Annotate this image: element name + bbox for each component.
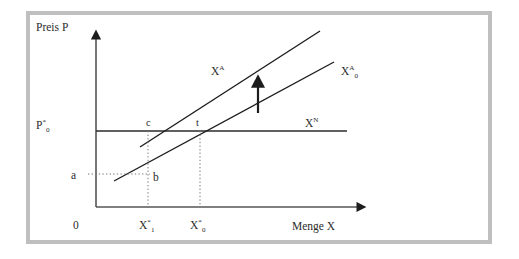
x-tick-sub: 1 <box>151 226 155 234</box>
x-tick-label-x1: X*1 <box>139 220 154 232</box>
curve-label-sup: A <box>219 64 224 72</box>
curve-label-sup: N <box>313 116 318 124</box>
x-axis-label: Menge X <box>292 221 335 233</box>
figure-root: Preis P Menge X 0 P*0 X*1 X*0 XA XA0 XN … <box>0 0 519 259</box>
curve-label-sup: A <box>349 64 354 72</box>
curve-label-demand: XN <box>305 118 318 130</box>
diagram-frame <box>26 11 492 244</box>
point-label-b: b <box>153 172 159 184</box>
y-tick-label-p0: P*0 <box>36 120 50 132</box>
point-label-a: a <box>71 170 76 182</box>
origin-label: 0 <box>73 220 79 232</box>
curve-label-supply-initial: XA0 <box>341 66 358 78</box>
y-tick-sub: 0 <box>46 126 50 134</box>
y-tick-sup: * <box>42 118 46 126</box>
point-label-t: t <box>196 118 199 129</box>
x-tick-label-x0: X*0 <box>190 220 205 232</box>
point-label-c: c <box>146 118 151 129</box>
curve-label-sub: 0 <box>354 72 358 80</box>
x-tick-sub: 0 <box>202 226 206 234</box>
x-tick-sup: * <box>147 218 151 226</box>
x-tick-sup: * <box>198 218 202 226</box>
y-axis-label: Preis P <box>36 22 68 34</box>
curve-label-supply-shifted: XA <box>211 66 224 78</box>
